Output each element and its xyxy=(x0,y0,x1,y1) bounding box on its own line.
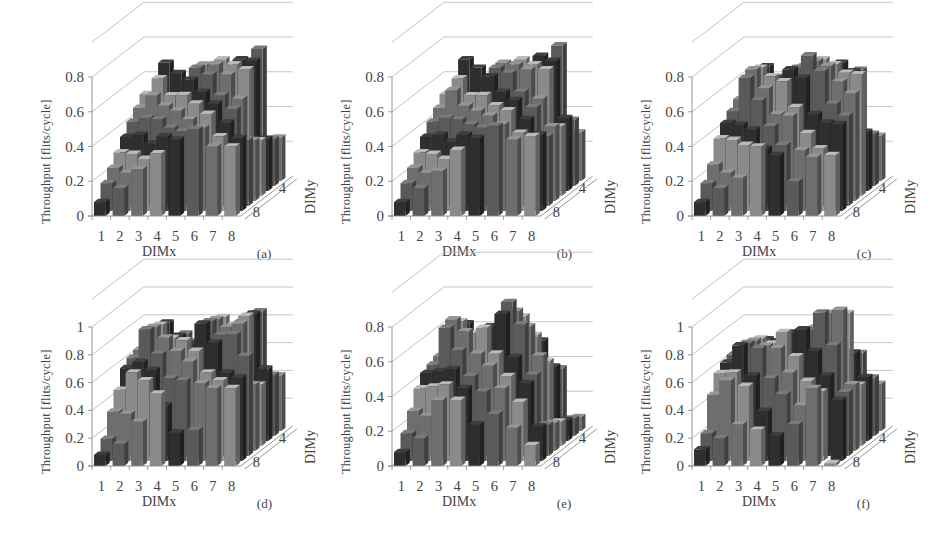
depth-tick-label: 8 xyxy=(253,454,260,470)
x-tick-label: 8 xyxy=(228,478,235,494)
bar xyxy=(750,427,766,467)
bar xyxy=(394,449,410,466)
x-tick-label: 5 xyxy=(472,228,479,244)
bar xyxy=(787,178,803,216)
y-tick-label: 0 xyxy=(77,458,85,474)
y-tick-label: 0.4 xyxy=(365,139,384,155)
x-tick-label: 4 xyxy=(753,228,761,244)
y-tick-label: 0.2 xyxy=(665,173,684,189)
bar xyxy=(524,442,540,466)
bar xyxy=(487,122,503,216)
bar3d-plot: 00.20.40.60.81234567884 xyxy=(630,0,948,270)
depth-axis-label: DIMy xyxy=(303,180,319,214)
bar3d-plot: 00.20.40.60.81234567884 xyxy=(330,0,650,270)
depth-tick-label: 4 xyxy=(579,180,587,196)
y-tick-label: 0.2 xyxy=(665,430,684,446)
depth-axis-label: DIMy xyxy=(603,430,619,464)
y-tick-label: 0.6 xyxy=(65,104,84,120)
x-axis-label: DIMx xyxy=(442,494,476,510)
depth-tick-label: 4 xyxy=(279,430,287,446)
bar xyxy=(768,432,784,466)
bar xyxy=(831,396,847,461)
x-tick-label: 4 xyxy=(753,478,761,494)
y-tick-label: 0.8 xyxy=(65,69,84,85)
bar xyxy=(731,421,747,466)
depth-tick-label: 8 xyxy=(853,204,860,220)
bar xyxy=(413,435,429,466)
x-tick-label: 3 xyxy=(435,478,442,494)
chart-panel-c: 00.20.40.60.81234567884 Throughput [flit… xyxy=(630,0,930,266)
x-axis-label: DIMx xyxy=(742,494,776,510)
y-tick-label: 0.8 xyxy=(365,319,384,335)
y-tick-label: 0.4 xyxy=(65,402,84,418)
depth-tick-label: 4 xyxy=(879,180,887,196)
bar xyxy=(713,185,729,216)
bar xyxy=(131,418,147,466)
x-tick-label: 1 xyxy=(398,228,405,244)
depth-tick-label: 8 xyxy=(553,454,560,470)
y-tick-label: 0 xyxy=(677,458,685,474)
bar xyxy=(750,143,766,216)
x-tick-label: 7 xyxy=(209,478,216,494)
y-tick-label: 0.8 xyxy=(665,347,684,363)
bar xyxy=(468,421,484,466)
x-tick-label: 7 xyxy=(509,478,516,494)
bar xyxy=(450,147,466,216)
bar xyxy=(824,460,840,466)
bar xyxy=(206,143,222,216)
y-tick-label: 0.8 xyxy=(665,69,684,85)
y-tick-label: 0.8 xyxy=(65,347,84,363)
x-tick-label: 6 xyxy=(791,478,798,494)
bar xyxy=(450,397,466,466)
bar3d-plot: 00.20.40.60.811234567884 xyxy=(630,250,948,520)
x-tick-label: 8 xyxy=(828,478,835,494)
x-tick-label: 3 xyxy=(135,478,142,494)
x-tick-label: 3 xyxy=(435,228,442,244)
chart-panel-f: 00.20.40.60.811234567884 Throughput [fli… xyxy=(630,250,930,516)
x-tick-label: 7 xyxy=(809,228,816,244)
depth-tick-label: 4 xyxy=(879,430,887,446)
x-tick-label: 5 xyxy=(772,228,779,244)
x-tick-label: 2 xyxy=(716,228,723,244)
chart-panel-a: 00.20.40.60.81234567884 Throughput [flit… xyxy=(30,0,330,266)
x-tick-label: 4 xyxy=(153,478,161,494)
bar3d-plot: 00.20.40.60.81234567884 xyxy=(330,250,650,520)
x-tick-label: 4 xyxy=(453,478,461,494)
bar3d-plot: 00.20.40.60.81234567884 xyxy=(30,0,350,270)
depth-axis-label: DIMy xyxy=(903,180,919,214)
x-tick-label: 5 xyxy=(172,478,179,494)
x-tick-label: 5 xyxy=(172,228,179,244)
bar xyxy=(824,152,840,216)
bar xyxy=(694,446,710,466)
bar xyxy=(187,427,203,467)
bar xyxy=(431,397,447,466)
bar xyxy=(168,429,184,466)
x-tick-label: 8 xyxy=(828,228,835,244)
y-tick-label: 0.6 xyxy=(365,104,384,120)
bar xyxy=(94,452,110,466)
bar xyxy=(768,152,784,216)
bar xyxy=(468,134,484,216)
x-tick-label: 2 xyxy=(416,228,423,244)
x-tick-label: 4 xyxy=(453,228,461,244)
y-axis-label: Throughput [flits/cycle] xyxy=(39,349,54,474)
y-tick-label: 0.2 xyxy=(65,173,84,189)
x-tick-label: 2 xyxy=(116,228,123,244)
bar xyxy=(113,185,129,216)
y-axis-label: Throughput [flits/cycle] xyxy=(339,99,354,224)
bar xyxy=(413,185,429,216)
y-tick-label: 0.4 xyxy=(665,402,684,418)
y-tick-label: 0.6 xyxy=(65,375,84,391)
x-tick-label: 6 xyxy=(791,228,798,244)
depth-tick-label: 8 xyxy=(253,204,260,220)
x-tick-label: 5 xyxy=(772,478,779,494)
y-tick-label: 0.6 xyxy=(665,375,684,391)
y-axis-label: Throughput [flits/cycle] xyxy=(39,99,54,224)
y-tick-label: 1 xyxy=(677,319,685,335)
bar xyxy=(113,440,129,466)
bar xyxy=(224,385,240,466)
x-tick-label: 2 xyxy=(716,478,723,494)
y-tick-label: 0 xyxy=(677,208,685,224)
y-axis-label: Throughput [flits/cycle] xyxy=(339,349,354,474)
panel-letter: (d) xyxy=(257,496,272,512)
